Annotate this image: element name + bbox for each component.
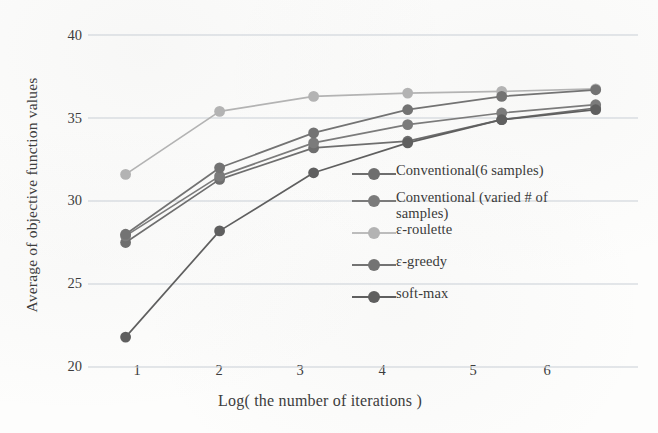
data-point <box>120 229 131 240</box>
data-point <box>496 91 507 102</box>
legend-label-conventional-varied-samples: Conventional (varied # of samples) <box>396 190 548 221</box>
data-point <box>402 119 413 130</box>
legend-marker-conventional-varied-samples <box>352 193 396 209</box>
legend-item-conventional-varied-samples[interactable]: Conventional (varied # of samples) <box>352 190 602 221</box>
data-point <box>308 138 319 149</box>
legend-label-epsilon-roulette: ε-roulette <box>396 222 452 238</box>
data-point <box>402 88 413 99</box>
legend-marker-conventional-6-samples <box>352 166 396 182</box>
data-point <box>214 226 225 237</box>
legend-marker-soft-max <box>352 289 396 305</box>
legend-marker-epsilon-greedy <box>352 257 396 273</box>
data-point <box>214 106 225 117</box>
data-point <box>308 127 319 138</box>
data-point <box>590 84 601 95</box>
legend-marker-epsilon-roulette <box>352 225 396 241</box>
legend-label-conventional-6-samples: Conventional(6 samples) <box>396 163 544 179</box>
legend-label-line-1: Conventional (varied # of <box>396 189 548 205</box>
data-point <box>120 332 131 343</box>
data-point <box>308 91 319 102</box>
legend-item-soft-max[interactable]: soft-max <box>352 286 602 305</box>
legend-label-line-2: samples) <box>396 205 448 221</box>
data-point <box>120 169 131 180</box>
data-point <box>402 104 413 115</box>
legend-item-epsilon-greedy[interactable]: ε-greedy <box>352 254 602 273</box>
data-point <box>590 104 601 115</box>
legend-label-epsilon-greedy: ε-greedy <box>396 254 447 270</box>
data-point <box>214 162 225 173</box>
data-point <box>308 167 319 178</box>
chart-legend: Conventional(6 samples) Conventional (va… <box>352 163 602 313</box>
data-point <box>496 114 507 125</box>
data-point <box>402 138 413 149</box>
chart-figure: Average of objective function values 40 … <box>0 0 658 433</box>
legend-item-epsilon-roulette[interactable]: ε-roulette <box>352 222 602 241</box>
legend-item-conventional-6-samples[interactable]: Conventional(6 samples) <box>352 163 602 182</box>
legend-label-soft-max: soft-max <box>396 286 448 302</box>
